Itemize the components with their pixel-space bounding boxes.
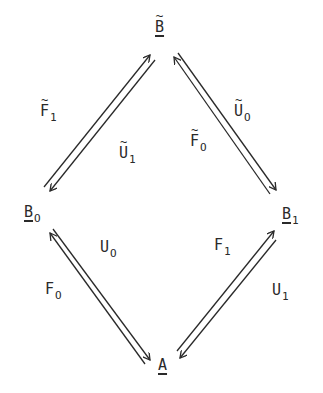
tilde-accent: ~ [40,94,49,106]
tilde-accent: ~ [190,124,199,136]
label-letter: F [45,280,54,298]
label-F1-tilde: ~F1 [40,104,57,119]
label-subscript: 1 [50,111,57,124]
node-letter: B [24,203,33,221]
arrow-U1-tilde [50,60,155,191]
label-subscript: 1 [129,153,136,166]
tilde-accent: ~ [119,136,128,148]
node-letter: A [158,356,167,374]
label-subscript: O [244,111,251,124]
label-subscript: O [110,247,117,260]
arrow-F0 [50,233,145,364]
label-subscript: 1 [224,245,231,258]
label-F0-tilde: ~FO [190,134,207,149]
label-U1-tilde: ~U1 [119,146,136,161]
label-letter: U [272,281,281,299]
tilde-accent: ~ [155,9,164,22]
label-subscript: O [200,141,207,154]
node-letter: B [282,205,291,223]
label-subscript: 1 [282,290,289,303]
node-B-tilde: ~ B [155,20,164,35]
arrow-F0-tilde [174,57,270,194]
label-F1: F1 [214,238,231,253]
label-letter: F [214,236,223,254]
label-subscript: O [55,289,62,302]
label-F0: FO [45,282,62,297]
label-U1: U1 [272,283,289,298]
node-B1: B1 [282,207,299,222]
node-subscript: 1 [292,214,299,227]
label-U0-tilde: ~UO [234,104,251,119]
label-U0: UO [100,240,117,255]
node-A: A [158,358,167,373]
arrow-U0-tilde [178,53,276,190]
node-B0: BO [24,205,41,220]
arrow-F1-tilde [44,55,150,187]
tilde-accent: ~ [234,94,243,106]
arrows-layer [0,0,323,393]
adjunction-diagram: ~ B BO B1 A ~F1 ~U1 ~FO ~UO FO UO F1 U1 [0,0,323,393]
node-subscript: O [34,212,41,225]
label-letter: U [100,238,109,256]
